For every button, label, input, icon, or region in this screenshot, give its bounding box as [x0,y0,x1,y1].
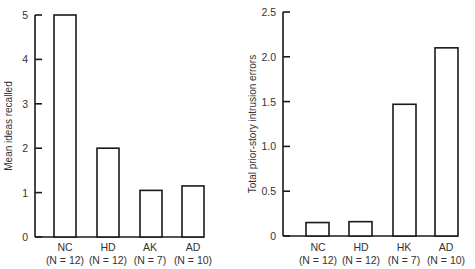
x-tick-sublabel: (N = 12) [342,254,380,266]
x-tick-label: HK [397,241,412,253]
bar-hd [349,222,372,236]
x-tick-label: NC [57,241,73,253]
chart-prior-story-intrusion-errors: 00.51.01.52.02.5Total prior-story intrus… [247,6,465,266]
y-tick-label: 2 [22,142,28,154]
x-tick-label: AK [143,241,157,253]
y-tick-label: 2.5 [261,6,276,18]
x-tick-label: AD [186,241,201,253]
bar-ad [182,186,204,237]
chart-mean-ideas-recalled: 012345Mean ideas recalledNC(N = 12)HD(N … [3,9,212,266]
y-tick-label: 0.5 [261,185,276,197]
x-tick-sublabel: (N = 7) [134,254,166,266]
figure: 012345Mean ideas recalledNC(N = 12)HD(N … [0,0,475,269]
y-axis-title: Mean ideas recalled [3,81,14,171]
bar-ad [435,48,458,236]
x-tick-sublabel: (N = 10) [427,254,465,266]
y-tick-label: 0 [22,231,28,243]
y-tick-label: 4 [22,53,28,65]
x-tick-sublabel: (N = 7) [388,254,420,266]
x-tick-sublabel: (N = 10) [174,254,212,266]
x-tick-sublabel: (N = 12) [89,254,127,266]
x-tick-sublabel: (N = 12) [299,254,337,266]
y-tick-label: 3 [22,98,28,110]
bar-hk [393,104,416,236]
bar-ak [140,190,162,237]
x-tick-label: NC [310,241,326,253]
x-tick-label: AD [439,241,454,253]
bar-nc [54,15,76,237]
bar-nc [306,223,329,236]
y-tick-label: 1 [22,187,28,199]
y-tick-label: 1.5 [261,96,276,108]
bar-hd [97,148,119,237]
x-tick-label: HD [100,241,116,253]
y-axis-title: Total prior-story intrusion errors [247,55,258,193]
y-tick-label: 1.0 [261,140,276,152]
x-tick-sublabel: (N = 12) [46,254,84,266]
y-tick-label: 5 [22,9,28,21]
y-tick-label: 0 [270,230,276,242]
x-tick-label: HD [353,241,369,253]
y-tick-label: 2.0 [261,51,276,63]
